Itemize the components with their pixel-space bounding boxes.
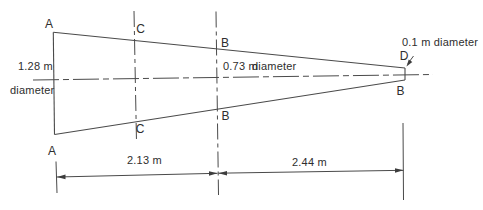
dimension-line-right-span — [219, 170, 404, 173]
right-diameter-label: 0.1 m diameter — [402, 36, 478, 48]
arrowhead-right-span-left — [219, 171, 228, 176]
arrowhead-left-span-right — [209, 171, 218, 176]
left-diameter-word: diameter — [10, 84, 55, 96]
label-b-right: B — [396, 84, 404, 98]
label-d: D — [400, 49, 409, 63]
dimension-line-left-span — [57, 173, 218, 177]
taper-diagram: A C B D B B C A 1.28 m diameter 0.73 m d… — [0, 0, 483, 210]
arrowhead-left-span-left — [57, 175, 66, 180]
span-left-label: 2.13 m — [127, 154, 162, 166]
extension-line-right — [403, 123, 404, 200]
centerline — [33, 75, 433, 81]
taper-diagram-svg: A C B D B B C A 1.28 m diameter 0.73 m d… — [0, 0, 483, 210]
label-a-top: A — [45, 17, 53, 31]
span-right-label: 2.44 m — [292, 156, 327, 168]
label-c-top: C — [136, 22, 145, 36]
label-a-bottom: A — [48, 144, 56, 158]
section-line-b — [216, 12, 219, 196]
left-diameter-value: 1.28 m — [18, 60, 53, 72]
arrowhead-right-span-right — [395, 168, 404, 173]
extension-line-left — [56, 162, 57, 194]
mid-diameter-word: diameter — [252, 60, 297, 72]
taper-bottom-edge — [55, 80, 406, 135]
label-c-bottom: C — [136, 122, 145, 136]
label-b-bottom: B — [221, 109, 229, 123]
label-b-top: B — [221, 36, 229, 50]
